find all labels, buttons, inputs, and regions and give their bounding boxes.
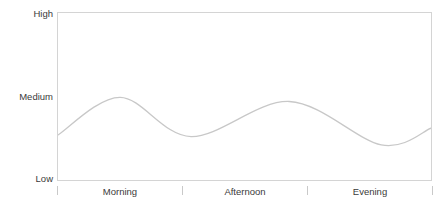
y-axis-label-high: High <box>0 8 53 19</box>
plot-area <box>57 12 432 181</box>
x-axis-label-evening: Evening <box>353 185 387 199</box>
y-axis: High Medium Low <box>0 0 53 212</box>
line-chart: High Medium Low Morning Afternoon Evenin… <box>0 0 444 212</box>
y-axis-label-low: Low <box>0 173 53 184</box>
y-axis-label-medium: Medium <box>0 91 53 102</box>
x-axis-label-morning: Morning <box>103 185 137 199</box>
x-axis-label-afternoon: Afternoon <box>224 185 265 199</box>
x-axis: Morning Afternoon Evening <box>0 185 444 203</box>
series-line-activity-level <box>58 97 431 145</box>
activity-level-curve <box>58 13 431 180</box>
